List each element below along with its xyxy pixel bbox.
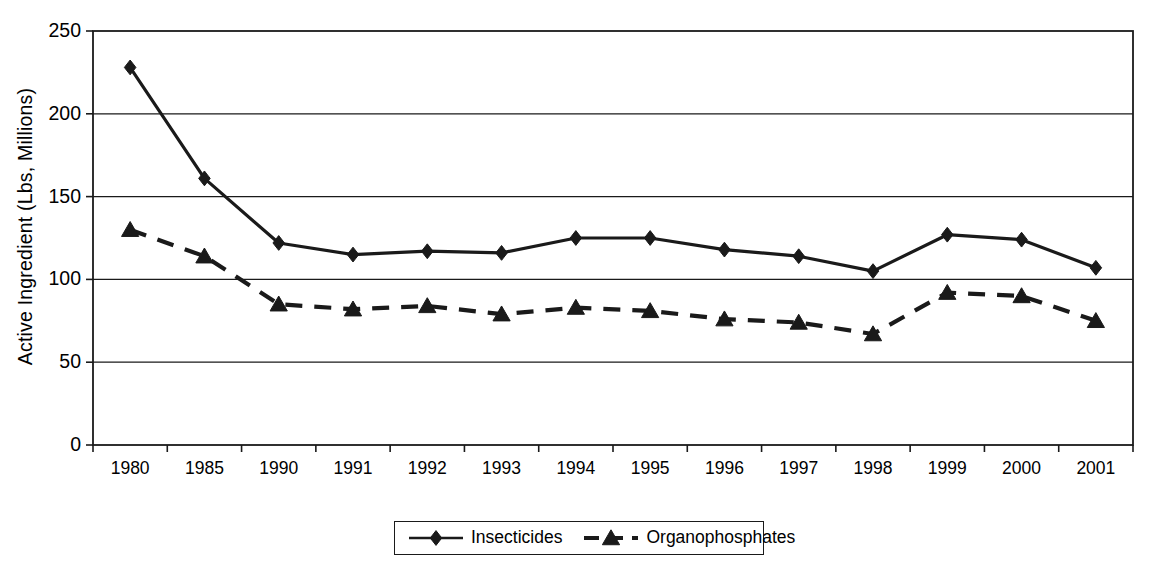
x-tick-label: 2000 — [984, 460, 1058, 478]
y-tick-label: 100 — [23, 269, 81, 289]
x-tick-label: 1999 — [910, 460, 984, 478]
x-tick-label: 1985 — [167, 460, 241, 478]
x-tick-label: 1997 — [762, 460, 836, 478]
data-point-marker — [1090, 260, 1102, 275]
chart-container: Active Ingredient (Lbs, Millions) 050100… — [0, 0, 1158, 578]
x-tick-label: 1980 — [93, 460, 167, 478]
axis-tick-marks — [86, 31, 1133, 452]
data-point-marker — [122, 222, 139, 237]
y-tick-label: 50 — [23, 352, 81, 372]
data-point-marker — [942, 227, 954, 242]
x-tick-label: 1991 — [316, 460, 390, 478]
y-tick-label: 200 — [23, 104, 81, 124]
data-point-marker — [719, 242, 731, 257]
legend-label: Insecticides — [471, 529, 562, 547]
data-point-marker — [1013, 288, 1030, 303]
x-tick-label: 1998 — [836, 460, 910, 478]
y-tick-label: 250 — [23, 21, 81, 41]
x-tick-label: 1992 — [390, 460, 464, 478]
data-point-marker — [570, 231, 582, 246]
y-tick-label: 150 — [23, 187, 81, 207]
x-tick-label: 1990 — [242, 460, 316, 478]
data-point-marker — [422, 244, 434, 259]
x-tick-label: 1996 — [687, 460, 761, 478]
chart-legend: InsecticidesOrganophosphates — [394, 521, 764, 555]
x-tick-label: 1993 — [464, 460, 538, 478]
data-series-layer — [122, 60, 1105, 341]
data-point-marker — [793, 249, 805, 264]
legend-label: Organophosphates — [646, 529, 795, 547]
data-point-marker — [644, 231, 656, 246]
y-tick-label: 0 — [23, 435, 81, 455]
series-insecticides — [124, 60, 1101, 278]
x-tick-label: 1994 — [539, 460, 613, 478]
legend-entry-insecticides: Insecticides — [407, 522, 562, 554]
diamond-marker-icon — [407, 528, 465, 548]
data-point-marker — [1016, 232, 1028, 247]
x-tick-label: 1995 — [613, 460, 687, 478]
data-point-marker — [867, 264, 879, 279]
plot-area — [0, 0, 1158, 578]
data-point-marker — [496, 246, 508, 261]
triangle-marker-icon — [582, 528, 640, 548]
data-point-marker — [347, 247, 359, 262]
legend-entry-organophosphates: Organophosphates — [582, 522, 795, 554]
x-tick-label: 2001 — [1059, 460, 1133, 478]
